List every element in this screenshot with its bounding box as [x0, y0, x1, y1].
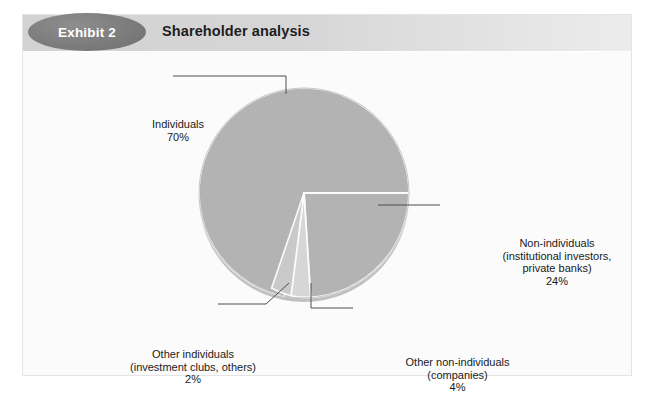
pie-label-individuals-value: 70% — [136, 131, 220, 144]
exhibit-title: Shareholder analysis — [162, 23, 310, 39]
pie-label-other-non-individuals-value: 4% — [375, 381, 540, 394]
pie-label-non-individuals-detail-2: private banks) — [464, 262, 650, 275]
pie-label-non-individuals-value: 24% — [464, 275, 650, 288]
pie-label-other-individuals-detail: (investment clubs, others) — [98, 361, 288, 374]
pie-slice-non-individuals — [304, 193, 409, 298]
pie-label-non-individuals-name: Non-individuals — [464, 237, 650, 250]
pie-label-non-individuals-detail-1: (institutional investors, — [464, 250, 650, 263]
exhibit-number-label: Exhibit 2 — [58, 25, 116, 40]
pie-label-other-non-individuals: Other non-individuals (companies) 4% — [375, 356, 540, 394]
pie-label-other-individuals-value: 2% — [98, 373, 288, 386]
pie-label-other-individuals: Other individuals (investment clubs, oth… — [98, 348, 288, 386]
chart-area: Individuals 70% Non-individuals (institu… — [23, 52, 631, 375]
exhibit-frame: Exhibit 2 Shareholder analysis — [0, 0, 653, 400]
frame-border-right — [631, 14, 632, 376]
pie-label-other-non-individuals-name: Other non-individuals — [375, 356, 540, 369]
pie-chart — [23, 52, 631, 375]
pie-label-individuals: Individuals 70% — [136, 118, 220, 143]
pie-label-individuals-name: Individuals — [136, 118, 220, 131]
pie-label-other-individuals-name: Other individuals — [98, 348, 288, 361]
pie-label-other-non-individuals-detail: (companies) — [375, 369, 540, 382]
leader-line-individuals — [173, 76, 286, 94]
pie-label-non-individuals: Non-individuals (institutional investors… — [464, 237, 650, 287]
exhibit-number-badge: Exhibit 2 — [28, 13, 146, 51]
